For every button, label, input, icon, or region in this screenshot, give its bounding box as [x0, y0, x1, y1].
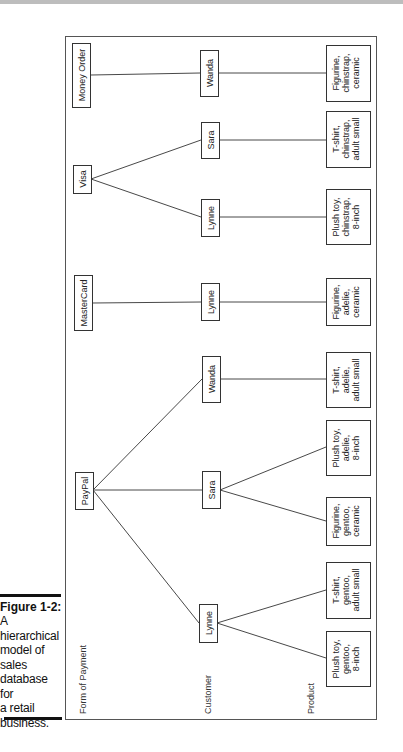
product-line: T-shirt,	[331, 366, 341, 394]
node-label: Sara	[206, 130, 216, 149]
product-line: Plush toy,	[331, 429, 341, 468]
node-label: MasterCard	[79, 279, 89, 326]
product-line: adult small	[351, 568, 361, 611]
product-line: Figurine,	[331, 503, 341, 538]
product-node: Figurine, adelie, ceramic	[327, 279, 371, 326]
product-line: Plush toy,	[331, 640, 341, 679]
product-line: ceramic	[351, 286, 361, 318]
edges-customer-product	[217, 73, 326, 658]
payment-node-money-order: Money Order	[73, 44, 91, 108]
product-line: 8-inch	[351, 436, 361, 461]
customer-node-wanda-paypal: Wanda	[203, 357, 221, 403]
node-label: PayPal	[80, 477, 90, 506]
product-line: chinstrap,	[341, 197, 351, 236]
node-label: Lynne	[206, 206, 216, 230]
product-line: adelie,	[341, 435, 351, 462]
level-label-payment: Form of Payment	[78, 644, 88, 714]
product-line: T-shirt,	[331, 576, 341, 604]
product-line: adelie,	[341, 289, 351, 316]
payment-node-mastercard: MasterCard	[75, 276, 93, 331]
product-node: Figurine, gentoo, ceramic	[327, 498, 371, 546]
hierarchy-diagram: Money Order Visa MasterCard PayPal Wanda…	[0, 0, 403, 752]
product-line: Figurine,	[331, 55, 341, 90]
customer-node-sara-paypal: Sara	[203, 472, 221, 509]
level-label-product: Product	[306, 682, 316, 714]
product-line: adelie,	[341, 367, 351, 394]
node-label: Money Order	[77, 49, 87, 102]
product-line: adult small	[351, 358, 361, 401]
product-line: gentoo,	[341, 575, 351, 605]
product-line: ceramic	[351, 505, 361, 537]
product-node: Plush toy, adelie, 8-inch	[327, 421, 371, 476]
customer-node-sara-visa: Sara	[202, 123, 220, 159]
product-line: adult small	[351, 117, 361, 160]
node-label: Visa	[78, 170, 88, 187]
product-line: chinstrap,	[341, 53, 351, 92]
node-label: Sara	[207, 480, 217, 499]
node-label: Wanda	[207, 365, 217, 393]
product-line: gentoo,	[341, 506, 351, 536]
edges-payment-customer	[91, 73, 202, 623]
product-node: Figurine, chinstrap, ceramic	[327, 46, 371, 102]
product-node: T-shirt, adelie, adult small	[327, 353, 371, 408]
product-line: ceramic	[351, 57, 361, 89]
customer-node-lynne-mastercard: Lynne	[202, 284, 220, 321]
product-node: T-shirt, gentoo, adult small	[327, 563, 371, 619]
product-line: chinstrap,	[341, 119, 351, 158]
product-line: 8-inch	[351, 205, 361, 230]
payment-node-visa: Visa	[74, 166, 92, 194]
product-line: Figurine,	[331, 284, 341, 319]
node-label: Lynne	[206, 290, 216, 314]
product-node: T-shirt, chinstrap, adult small	[327, 112, 371, 168]
payment-node-paypal: PayPal	[76, 473, 94, 510]
level-label-customer: Customer	[203, 675, 213, 714]
product-node: Plush toy, gentoo, 8-inch	[327, 632, 371, 687]
product-line: T-shirt,	[331, 125, 341, 153]
product-line: gentoo,	[341, 644, 351, 674]
node-label: Wanda	[205, 59, 215, 87]
product-line: Plush toy,	[331, 198, 341, 237]
customer-node-wanda-moneyorder: Wanda	[201, 51, 219, 97]
node-label: Lynne	[204, 611, 214, 635]
customer-node-lynne-visa: Lynne	[202, 200, 220, 237]
product-node: Plush toy, chinstrap, 8-inch	[327, 190, 371, 245]
customer-node-lynne-paypal: Lynne	[200, 605, 218, 643]
product-line: 8-inch	[351, 647, 361, 672]
